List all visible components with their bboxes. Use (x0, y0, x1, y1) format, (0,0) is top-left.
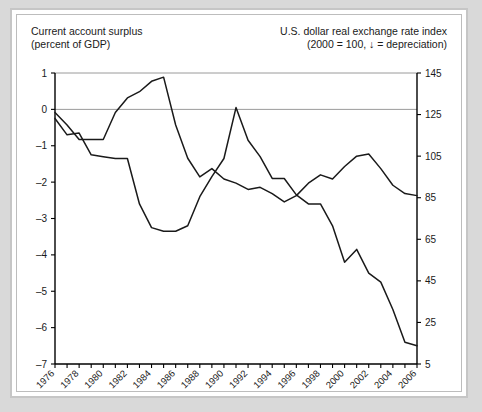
x-axis-tick-label: 1986 (154, 368, 177, 391)
right-axis-tick-label: 25 (425, 317, 437, 328)
series-current-account-line (55, 108, 417, 346)
x-axis-tick-label: 1992 (227, 368, 250, 391)
right-axis-tick-label: 105 (425, 151, 442, 162)
right-axis-tick-label: 45 (425, 275, 437, 286)
x-axis-tick-label: 2002 (347, 368, 370, 391)
right-axis-tick-label: 65 (425, 234, 437, 245)
x-axis-tick-label: 1988 (178, 368, 201, 391)
x-axis-tick-label: 1980 (82, 368, 105, 391)
x-axis-tick-label: 1996 (275, 368, 298, 391)
left-axis-tick-label: –4 (36, 249, 48, 260)
right-axis-tick-label: 85 (425, 192, 437, 203)
left-axis-tick-label: 0 (41, 104, 47, 115)
plot-area: 10–1–2–3–4–5–6–7145125105856545255197619… (17, 15, 461, 391)
left-axis-tick-label: –7 (36, 359, 48, 370)
x-axis-tick-label: 1990 (203, 368, 226, 391)
left-axis-tick-label: –6 (36, 322, 48, 333)
series-exchange-rate-line (55, 77, 417, 202)
x-axis-tick-label: 2004 (372, 368, 395, 391)
x-axis-tick-label: 1978 (58, 368, 81, 391)
right-axis-tick-label: 145 (425, 68, 442, 79)
x-axis-tick-label: 2000 (323, 368, 346, 391)
left-axis-tick-label: –5 (36, 286, 48, 297)
chart-panel: Current account surplus (percent of GDP)… (16, 14, 462, 392)
left-axis-tick-label: 1 (41, 68, 47, 79)
left-axis-tick-label: –3 (36, 213, 48, 224)
x-axis-tick-label: 1982 (106, 368, 129, 391)
left-axis-tick-label: –1 (36, 140, 48, 151)
right-axis-tick-label: 125 (425, 109, 442, 120)
x-axis-tick-label: 1998 (299, 368, 322, 391)
x-axis-tick-label: 2006 (396, 368, 419, 391)
x-axis-tick-label: 1994 (251, 368, 274, 391)
chart-card: Current account surplus (percent of GDP)… (10, 8, 468, 398)
right-axis-tick-label: 5 (425, 359, 431, 370)
dual-axis-line-chart: 10–1–2–3–4–5–6–7145125105856545255197619… (17, 15, 463, 397)
left-axis-tick-label: –2 (36, 177, 48, 188)
x-axis-tick-label: 1984 (130, 368, 153, 391)
x-axis-tick-label: 1976 (34, 368, 57, 391)
